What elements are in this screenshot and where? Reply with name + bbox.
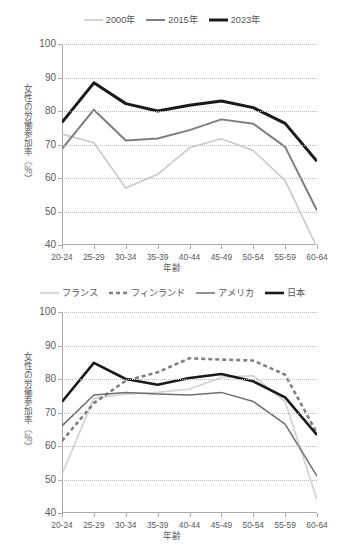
x-tick-mark bbox=[317, 513, 318, 517]
x-tick-label-60-64: 60-64 bbox=[306, 521, 327, 529]
x-axis-title-top: 年齢 bbox=[0, 261, 344, 273]
x-tick-mark bbox=[253, 245, 254, 249]
x-tick-mark bbox=[62, 513, 63, 517]
y-tick-mark bbox=[58, 379, 62, 380]
x-tick-mark bbox=[285, 245, 286, 249]
gridline-y-80 bbox=[62, 379, 317, 380]
x-tick-mark bbox=[126, 245, 127, 249]
y-tick-label: 40 bbox=[45, 508, 56, 518]
series-line-2000年 bbox=[62, 134, 317, 247]
y-tick-label: 60 bbox=[45, 441, 56, 451]
y-tick-label: 100 bbox=[39, 307, 56, 317]
x-tick-mark bbox=[158, 513, 159, 517]
y-tick-label: 50 bbox=[45, 475, 56, 485]
y-axis-title-bottom: 女性の労働参加率（％） bbox=[22, 352, 31, 451]
y-tick-mark bbox=[58, 413, 62, 414]
legend-swatch-icon bbox=[265, 288, 284, 300]
gridline-y-60 bbox=[62, 178, 317, 179]
x-tick-mark bbox=[62, 245, 63, 249]
y-tick-mark bbox=[58, 111, 62, 112]
series-line-アメリカ bbox=[62, 392, 317, 476]
x-tick-mark bbox=[190, 513, 191, 517]
legend-label: 日本 bbox=[287, 289, 305, 298]
x-tick-label-30-34: 30-34 bbox=[115, 253, 136, 261]
plot-area-bottom: 40506070809010020-2425-2930-3435-3940-44… bbox=[62, 312, 317, 513]
x-tick-mark bbox=[285, 513, 286, 517]
x-tick-label-40-44: 40-44 bbox=[179, 521, 200, 529]
x-tick-label-45-49: 45-49 bbox=[211, 253, 232, 261]
legend-label: 2000年 bbox=[106, 16, 135, 25]
legend-label: 2015年 bbox=[168, 16, 197, 25]
x-tick-mark bbox=[158, 245, 159, 249]
y-tick-label: 100 bbox=[39, 39, 56, 49]
legend-swatch-icon bbox=[146, 15, 165, 27]
legend-item-アメリカ: アメリカ bbox=[196, 288, 254, 300]
y-tick-label: 40 bbox=[45, 240, 56, 250]
legend-label: 2023年 bbox=[231, 16, 260, 25]
x-tick-label-35-39: 35-39 bbox=[147, 521, 168, 529]
legend-item-2023年: 2023年 bbox=[209, 15, 260, 27]
y-tick-mark bbox=[58, 44, 62, 45]
x-tick-label-55-59: 55-59 bbox=[274, 253, 295, 261]
x-tick-mark bbox=[221, 513, 222, 517]
gridline-y-90 bbox=[62, 78, 317, 79]
x-tick-label-20-24: 20-24 bbox=[51, 521, 72, 529]
legend-label: アメリカ bbox=[218, 289, 254, 298]
x-tick-label-40-44: 40-44 bbox=[179, 253, 200, 261]
x-axis-title-bottom: 年齢 bbox=[0, 529, 344, 541]
legend-item-日本: 日本 bbox=[265, 288, 305, 300]
y-tick-label: 50 bbox=[45, 207, 56, 217]
legend-bottom: フランスフィンランドアメリカ日本 bbox=[0, 288, 344, 300]
x-tick-label-25-29: 25-29 bbox=[83, 521, 104, 529]
gridline-y-70 bbox=[62, 145, 317, 146]
x-tick-mark bbox=[221, 245, 222, 249]
series-line-2023年 bbox=[62, 83, 317, 161]
gridline-y-50 bbox=[62, 212, 317, 213]
legend-swatch-icon bbox=[40, 288, 59, 300]
x-tick-mark bbox=[126, 513, 127, 517]
gridline-y-100 bbox=[62, 312, 317, 313]
legend-item-2000年: 2000年 bbox=[84, 15, 135, 27]
y-axis-title-top: 女性の労働参加率（％） bbox=[22, 84, 31, 183]
gridline-y-60 bbox=[62, 446, 317, 447]
y-tick-label: 70 bbox=[45, 408, 56, 418]
gridline-y-50 bbox=[62, 480, 317, 481]
y-tick-label: 90 bbox=[45, 341, 56, 351]
y-tick-label: 80 bbox=[45, 374, 56, 384]
y-tick-mark bbox=[58, 145, 62, 146]
gridline-y-70 bbox=[62, 413, 317, 414]
x-tick-mark bbox=[94, 245, 95, 249]
y-tick-label: 90 bbox=[45, 73, 56, 83]
legend-swatch-icon bbox=[196, 288, 215, 300]
chart-figure-top: 2000年2015年2023年 女性の労働参加率（％） 405060708090… bbox=[0, 0, 344, 273]
x-tick-label-50-54: 50-54 bbox=[243, 253, 264, 261]
x-tick-label-45-49: 45-49 bbox=[211, 521, 232, 529]
legend-swatch-icon bbox=[84, 15, 103, 27]
legend-label: フランス bbox=[62, 289, 98, 298]
gridline-y-80 bbox=[62, 111, 317, 112]
y-tick-mark bbox=[58, 178, 62, 179]
legend-item-フィンランド: フィンランド bbox=[109, 288, 185, 300]
x-tick-label-25-29: 25-29 bbox=[83, 253, 104, 261]
plot-area-top: 40506070809010020-2425-2930-3435-3940-44… bbox=[62, 44, 317, 245]
y-tick-mark bbox=[58, 212, 62, 213]
legend-swatch-icon bbox=[209, 15, 228, 27]
x-tick-mark bbox=[253, 513, 254, 517]
y-tick-label: 70 bbox=[45, 140, 56, 150]
y-tick-mark bbox=[58, 446, 62, 447]
y-tick-mark bbox=[58, 312, 62, 313]
x-tick-label-50-54: 50-54 bbox=[243, 521, 264, 529]
y-tick-label: 80 bbox=[45, 106, 56, 116]
x-tick-mark bbox=[190, 245, 191, 249]
x-tick-label-20-24: 20-24 bbox=[51, 253, 72, 261]
legend-label: フィンランド bbox=[131, 289, 185, 298]
x-tick-label-30-34: 30-34 bbox=[115, 521, 136, 529]
legend-swatch-icon bbox=[109, 288, 128, 300]
x-tick-label-35-39: 35-39 bbox=[147, 253, 168, 261]
x-tick-mark bbox=[317, 245, 318, 249]
y-tick-mark bbox=[58, 78, 62, 79]
series-line-フィンランド bbox=[62, 358, 317, 441]
x-tick-label-60-64: 60-64 bbox=[306, 253, 327, 261]
legend-item-2015年: 2015年 bbox=[146, 15, 197, 27]
y-tick-mark bbox=[58, 480, 62, 481]
